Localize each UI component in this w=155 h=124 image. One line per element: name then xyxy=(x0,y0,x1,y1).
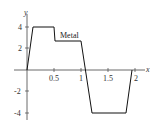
y-axis-label: y xyxy=(23,8,28,17)
y-tick-label: -2 xyxy=(14,87,21,96)
series-annotation: Metal xyxy=(60,31,79,40)
chart: 0.5 1 1.5 2 4 2 -2 -4 x y Metal xyxy=(0,0,155,124)
y-tick-label: -4 xyxy=(14,109,21,118)
x-tick-label: 1 xyxy=(79,74,83,83)
x-tick-label: 1.5 xyxy=(103,74,113,83)
y-tick-label: 2 xyxy=(18,44,22,53)
x-tick-label: 2 xyxy=(134,74,138,83)
y-tick-label: 4 xyxy=(18,23,22,32)
x-tick-label: 0.5 xyxy=(49,74,59,83)
x-axis-label: x xyxy=(145,65,150,74)
